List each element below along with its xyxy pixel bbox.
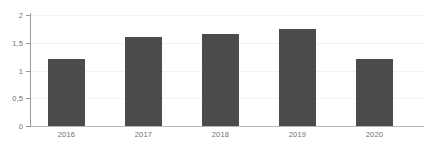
y-tick-0 — [26, 126, 31, 127]
y-axis-tick-label: 0 — [19, 122, 23, 131]
bar-chart: 2 1,5 1 0,5 0 2016 2017 2018 2019 2020 — [0, 0, 436, 152]
bar-2018 — [202, 34, 239, 126]
bar-2019 — [279, 29, 316, 126]
gridline-baseline-0 — [30, 126, 424, 127]
x-axis-tick-label: 2017 — [135, 130, 153, 139]
y-axis-tick-label: 1,5 — [12, 38, 23, 47]
y-axis-tick-labels: 2 1,5 1 0,5 0 — [0, 0, 23, 152]
x-axis-tick-label: 2018 — [212, 130, 230, 139]
y-axis-tick-label: 1 — [19, 66, 23, 75]
bar-2020 — [356, 59, 393, 126]
bar-series — [30, 0, 424, 126]
y-axis-tick-label: 0,5 — [12, 94, 23, 103]
x-axis-tick-label: 2016 — [58, 130, 76, 139]
x-axis-tick-labels: 2016 2017 2018 2019 2020 — [30, 130, 424, 150]
y-axis-tick-label: 2 — [19, 11, 23, 20]
bar-2016 — [48, 59, 85, 126]
x-axis-tick-label: 2020 — [366, 130, 384, 139]
bar-2017 — [125, 37, 162, 126]
x-axis-tick-label: 2019 — [289, 130, 307, 139]
